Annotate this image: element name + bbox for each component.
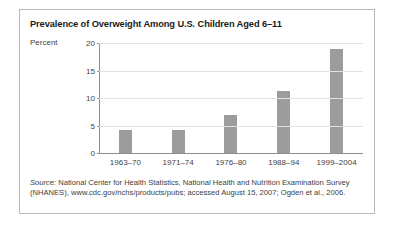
x-tick-label: 1976–80 (215, 158, 246, 167)
x-tick-label: 1971–74 (163, 158, 194, 167)
y-tick-label: 20 (86, 39, 95, 48)
y-tick-label: 5 (91, 121, 95, 130)
gridline (99, 71, 363, 72)
source-note: Source: National Center for Health Stati… (30, 178, 366, 198)
bar (172, 130, 185, 153)
bar (277, 91, 290, 153)
bar (119, 130, 132, 153)
x-tick-label: 1999–2004 (317, 158, 357, 167)
y-tick-mark (97, 71, 99, 72)
y-tick-mark (97, 98, 99, 99)
x-tick-label: 1963–70 (110, 158, 141, 167)
y-tick-mark (97, 43, 99, 44)
gridline (99, 126, 363, 127)
bar (330, 49, 343, 154)
gridline (99, 98, 363, 99)
figure-title: Prevalence of Overweight Among U.S. Chil… (30, 19, 282, 29)
y-tick-label: 15 (86, 66, 95, 75)
bar-chart: Percent 051015201963–701971–741976–80198… (30, 38, 366, 162)
bar (224, 115, 237, 154)
source-label: Source: (30, 178, 56, 187)
y-tick-label: 0 (91, 149, 95, 158)
y-axis-title: Percent (30, 38, 58, 47)
y-tick-label: 10 (86, 94, 95, 103)
y-tick-mark (97, 126, 99, 127)
plot-area: 051015201963–701971–741976–801988–941999… (99, 43, 363, 154)
x-tick-label: 1988–94 (268, 158, 299, 167)
source-text: National Center for Health Statistics, N… (30, 178, 350, 197)
figure-card: Prevalence of Overweight Among U.S. Chil… (19, 9, 375, 214)
y-tick-mark (97, 153, 99, 154)
gridline (99, 43, 363, 44)
